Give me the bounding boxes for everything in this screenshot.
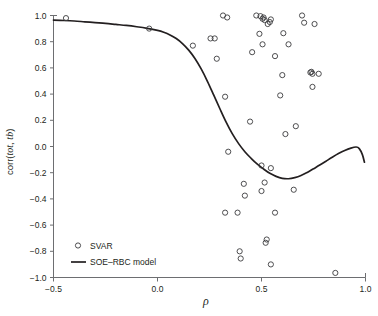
scatter-point [286, 42, 291, 47]
scatter-point [263, 240, 268, 245]
scatter-point [235, 210, 240, 215]
scatter-point [241, 181, 246, 186]
x-axis-title: ρ [202, 294, 209, 308]
scatter-point [272, 54, 277, 59]
scatter-point [272, 210, 277, 215]
scatter-point [226, 149, 231, 154]
soe-rbc-model-curve [54, 20, 365, 179]
scatter-point [281, 31, 286, 36]
legend-marker-svar-icon [75, 243, 80, 248]
x-tick-label: 0.0 [152, 284, 164, 294]
y-tick-label: −0.8 [30, 246, 47, 256]
ylabel-suffix: ) [4, 129, 15, 132]
scatter-point [268, 166, 273, 171]
scatter-point [310, 84, 315, 89]
y-axis-ticks: −1.0−0.8−0.6−0.4−0.20.00.20.40.60.81.0 [30, 11, 54, 283]
scatter-point [291, 187, 296, 192]
y-tick-label: −0.2 [30, 168, 47, 178]
scatter-point [214, 56, 219, 61]
ylabel-italic-tb: tb [4, 132, 15, 140]
scatter-point [283, 131, 288, 136]
y-tick-label: 0.0 [35, 142, 47, 152]
axes-lines [53, 15, 366, 278]
legend: SVAR SOE–RBC model [71, 241, 156, 268]
scatter-point [268, 262, 273, 267]
scatter-point [333, 270, 338, 275]
scatter-point [264, 237, 269, 242]
scatter-point [237, 249, 242, 254]
scatter-point [302, 20, 307, 25]
scatter-point [278, 93, 283, 98]
legend-label-model: SOE–RBC model [90, 257, 156, 267]
y-tick-label: 0.8 [35, 37, 47, 47]
scatter-point [190, 43, 195, 48]
scatter-point [260, 42, 265, 47]
legend-label-svar: SVAR [90, 241, 113, 251]
x-axis-ticks: −0.50.00.51.0 [45, 278, 372, 294]
x-tick-label: 1.0 [360, 284, 372, 294]
scatter-point [299, 13, 304, 18]
scatter-point [312, 21, 317, 26]
svar-scatter-points [63, 13, 338, 276]
scatter-plot: −1.0−0.8−0.6−0.4−0.20.00.20.40.60.81.0 −… [0, 0, 378, 316]
scatter-point [280, 73, 285, 78]
y-tick-label: −0.6 [30, 220, 47, 230]
ylabel-prefix: corr( [4, 155, 15, 175]
y-tick-label: 0.4 [35, 89, 47, 99]
ylabel-italic-tot: tot [4, 145, 15, 156]
scatter-point [259, 188, 264, 193]
figure-container: −1.0−0.8−0.6−0.4−0.20.00.20.40.60.81.0 −… [0, 0, 378, 316]
scatter-point [316, 71, 321, 76]
scatter-point [223, 210, 228, 215]
scatter-point [225, 15, 230, 20]
y-tick-label: 0.6 [35, 63, 47, 73]
scatter-point [247, 119, 252, 124]
y-tick-label: 0.2 [35, 115, 47, 125]
y-tick-label: 1.0 [35, 11, 47, 21]
y-tick-label: −0.4 [30, 194, 47, 204]
svg-text:corr(tot, tb): corr(tot, tb) [4, 129, 15, 175]
scatter-point [262, 180, 267, 185]
scatter-point [250, 50, 255, 55]
scatter-point [223, 94, 228, 99]
scatter-point [293, 124, 298, 129]
x-tick-label: −0.5 [45, 284, 62, 294]
scatter-point [242, 193, 247, 198]
x-tick-label: 0.5 [256, 284, 268, 294]
y-axis-title: corr(tot, tb) [4, 129, 15, 175]
y-tick-label: −1.0 [30, 273, 47, 283]
scatter-point [238, 256, 243, 261]
scatter-point [257, 31, 262, 36]
